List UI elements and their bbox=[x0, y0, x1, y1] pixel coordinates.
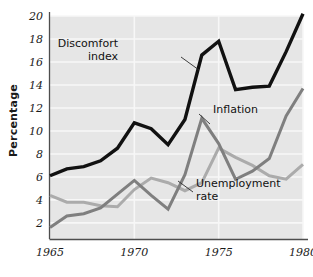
y-tick-label: 12 bbox=[29, 102, 43, 115]
y-tick-label: 4 bbox=[35, 194, 43, 207]
inflation-label: Inflation bbox=[213, 103, 258, 116]
x-tick-label: 1980 bbox=[289, 246, 313, 259]
y-axis-tick-labels: 2468101214161820 bbox=[28, 10, 43, 230]
chart-figure: Percentage DiscomfortindexInflationUnemp… bbox=[0, 0, 313, 277]
x-tick-label: 1965 bbox=[36, 246, 64, 259]
y-tick-label: 6 bbox=[36, 171, 43, 184]
y-tick-label: 10 bbox=[29, 125, 43, 138]
x-axis-tick-labels: 1965197019751980 bbox=[36, 246, 313, 259]
line-chart: DiscomfortindexInflationUnemploymentrate… bbox=[0, 0, 313, 277]
x-tick-label: 1975 bbox=[205, 246, 233, 259]
y-tick-label: 16 bbox=[29, 56, 43, 69]
x-tick-label: 1970 bbox=[120, 246, 148, 259]
y-tick-label: 2 bbox=[35, 217, 43, 230]
y-tick-label: 14 bbox=[29, 79, 43, 92]
y-tick-label: 18 bbox=[29, 33, 43, 46]
y-tick-label: 20 bbox=[28, 10, 43, 23]
y-tick-label: 8 bbox=[36, 148, 43, 161]
